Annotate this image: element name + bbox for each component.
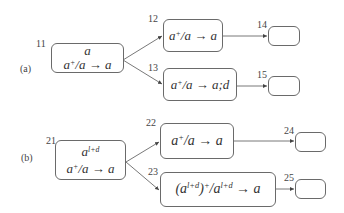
- arrow-glyph: →: [198, 133, 212, 148]
- state-exponent: l+d: [88, 145, 99, 154]
- edge-11-12: [123, 36, 162, 60]
- node-21-rule: a+/a → a: [67, 162, 115, 176]
- part-label-a: (a): [20, 63, 31, 74]
- node-21: al+d a+/a → a: [55, 140, 126, 180]
- arrow-glyph: →: [236, 181, 250, 196]
- node-number-14: 14: [257, 19, 267, 30]
- node-11-rule: a+/a → a: [64, 58, 112, 72]
- node-number-23: 23: [148, 166, 158, 177]
- rule-lhs-open: (a: [175, 181, 187, 196]
- node-13-rule: a+/a → a;d: [171, 78, 230, 92]
- node-number-15: 15: [257, 69, 267, 80]
- node-number-25: 25: [284, 172, 294, 183]
- arrow-glyph: →: [92, 161, 105, 176]
- node-22-rule: a+/a → a: [171, 134, 223, 149]
- node-13: a+/a → a;d: [163, 68, 237, 101]
- arrow-glyph: →: [89, 57, 102, 72]
- rule-divisor: /a: [181, 28, 194, 43]
- rule-divisor: /a: [75, 57, 88, 72]
- arrow-glyph: →: [196, 77, 209, 92]
- rule-rhs: a: [212, 133, 223, 148]
- node-number-11: 11: [36, 38, 46, 49]
- rule-rhs: a: [250, 181, 261, 196]
- rule-rhs: a: [207, 28, 217, 43]
- node-24-empty: [295, 132, 326, 152]
- diagram-canvas: (a) 11 a a+/a → a 12 a+/a → a 13 a+/a → …: [0, 0, 344, 213]
- node-number-24: 24: [284, 125, 294, 136]
- node-11: a a+/a → a: [51, 43, 124, 73]
- node-21-state: al+d: [82, 145, 100, 159]
- node-25-empty: [295, 179, 326, 199]
- rule-divisor: /a: [184, 133, 198, 148]
- node-number-22: 22: [146, 117, 156, 128]
- node-12-rule: a+/a → a: [169, 29, 217, 43]
- node-15-empty: [268, 76, 300, 96]
- node-12: a+/a → a: [163, 19, 223, 52]
- rule-rhs: a;d: [209, 77, 230, 92]
- node-23: (al+d)+/al+d → a: [160, 172, 276, 207]
- part-label-b: (b): [21, 152, 33, 163]
- node-11-state: a: [84, 44, 91, 58]
- node-22: a+/a → a: [160, 123, 234, 159]
- rule-rhs: a: [102, 57, 112, 72]
- rule-exponent: l+d: [187, 182, 199, 191]
- rule-divisor-exponent: l+d: [220, 182, 232, 191]
- rule-rhs: a: [105, 161, 115, 176]
- rule-divisor: /a: [210, 181, 221, 196]
- edge-21-22: [126, 142, 159, 162]
- node-23-rule: (al+d)+/al+d → a: [175, 182, 260, 197]
- rule-divisor: /a: [78, 161, 91, 176]
- arrow-glyph: →: [194, 28, 207, 43]
- node-number-12: 12: [148, 13, 158, 24]
- rule-divisor: /a: [182, 77, 195, 92]
- node-number-13: 13: [148, 62, 158, 73]
- node-14-empty: [268, 26, 300, 46]
